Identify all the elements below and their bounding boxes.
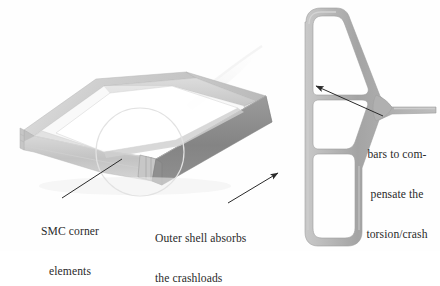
label-line: bars to com- xyxy=(357,148,437,161)
label-line: SMC corner xyxy=(24,225,116,238)
label-bars-torsion-crash: bars to com- pensate the torsion/crash xyxy=(357,122,437,267)
rectangular-frame-perspective xyxy=(20,72,272,195)
label-line: torsion/crash xyxy=(357,228,437,241)
label-line: pensate the xyxy=(357,188,437,201)
leader-outer-shell xyxy=(228,173,278,203)
label-line: Outer shell absorbs xyxy=(155,232,277,245)
label-line: the crashloads xyxy=(155,272,277,285)
label-line: elements xyxy=(24,265,116,278)
label-smc-corner-elements: SMC corner elements xyxy=(24,199,116,286)
label-outer-shell-crashloads: Outer shell absorbs the crashloads xyxy=(155,206,277,286)
